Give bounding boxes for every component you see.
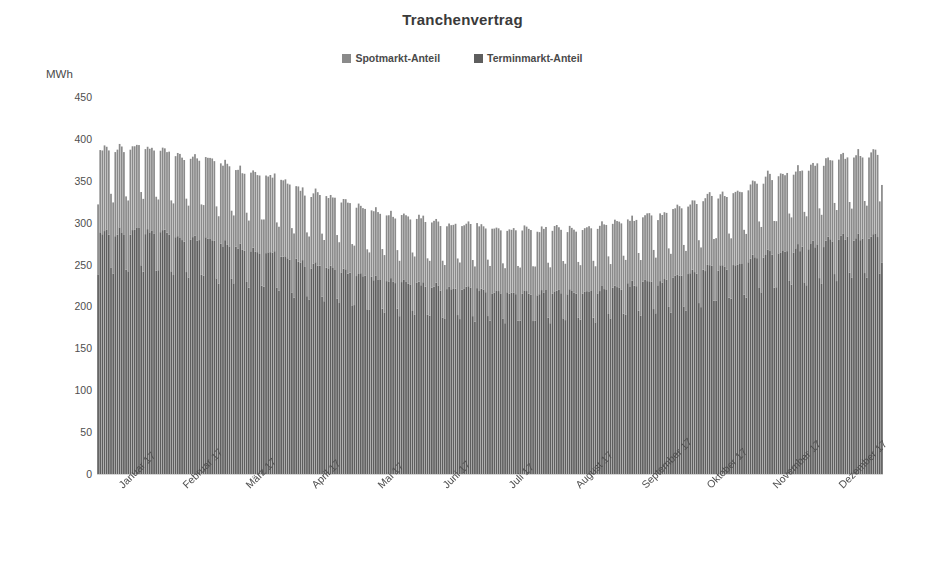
y-tick-label: 50 (2, 426, 92, 438)
y-axis-ticks: 050100150200250300350400450 (0, 0, 92, 561)
legend-item-terminmarkt-anteil[interactable]: Terminmarkt-Anteil (474, 52, 583, 64)
plot-area (97, 97, 883, 474)
legend-label-terminmarkt-anteil: Terminmarkt-Anteil (487, 52, 583, 64)
stacked-column-plot (97, 97, 883, 474)
y-tick-label: 300 (2, 217, 92, 229)
axis-baseline (97, 474, 883, 475)
legend-swatch-terminmarkt-anteil (474, 54, 483, 63)
y-tick-label: 150 (2, 342, 92, 354)
y-tick-label: 450 (2, 91, 92, 103)
legend-label-spotmarkt-anteil: Spotmarkt-Anteil (355, 52, 440, 64)
chart-title: Tranchenvertrag (0, 11, 925, 28)
y-tick-label: 400 (2, 133, 92, 145)
y-axis-title: MWh (46, 68, 73, 80)
y-tick-label: 100 (2, 384, 92, 396)
legend-item-spotmarkt-anteil[interactable]: Spotmarkt-Anteil (342, 52, 440, 64)
y-tick-label: 200 (2, 300, 92, 312)
legend-swatch-spotmarkt-anteil (342, 54, 351, 63)
x-axis-ticks: Januar 17Februar 17März 17April 17Mai 17… (97, 474, 883, 561)
chart-container: Tranchenvertrag Spotmarkt-Anteil Terminm… (0, 0, 925, 561)
chart-legend: Spotmarkt-Anteil Terminmarkt-Anteil (0, 52, 925, 64)
y-tick-label: 350 (2, 175, 92, 187)
y-tick-label: 250 (2, 259, 92, 271)
y-tick-label: 0 (2, 468, 92, 480)
